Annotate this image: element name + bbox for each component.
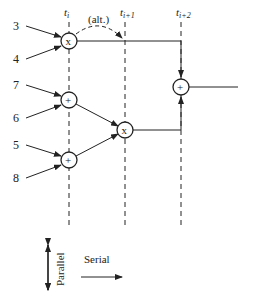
svg-text:+: + xyxy=(177,81,183,93)
input-4: 4 xyxy=(13,52,19,66)
input-8: 8 xyxy=(13,171,19,185)
legend-parallel: Parallel xyxy=(48,245,66,290)
svg-text:Serial: Serial xyxy=(84,253,110,265)
input-6: 6 xyxy=(13,111,19,125)
alt-arc xyxy=(76,26,122,38)
input-5: 5 xyxy=(13,138,19,152)
time-label-ti1: ti+1 xyxy=(120,6,135,20)
alt-label: (alt.) xyxy=(88,13,109,26)
svg-text:Parallel: Parallel xyxy=(54,252,66,286)
node-add1: + xyxy=(61,92,77,108)
internal-edges xyxy=(76,41,238,156)
node-add3: + xyxy=(173,79,189,95)
dataflow-diagram: ti ti+1 ti+2 (alt.) 3 4 7 6 5 8 xyxy=(0,0,257,303)
node-mult2: x xyxy=(117,122,133,138)
node-add2: + xyxy=(61,152,77,168)
svg-text:x: x xyxy=(122,124,128,136)
svg-text:+: + xyxy=(65,154,71,166)
svg-text:+: + xyxy=(65,94,71,106)
legend-serial: Serial xyxy=(81,253,122,277)
input-arrows xyxy=(26,26,61,178)
svg-text:x: x xyxy=(66,35,72,47)
input-3: 3 xyxy=(13,19,19,33)
time-label-ti2: ti+2 xyxy=(176,6,191,20)
time-label-ti: ti xyxy=(64,6,69,20)
node-mult1: x xyxy=(61,33,77,49)
input-7: 7 xyxy=(13,78,19,92)
